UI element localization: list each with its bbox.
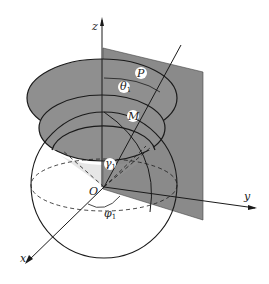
phi-sub: 1 xyxy=(112,213,116,221)
gamma-sub: 1 xyxy=(112,163,116,171)
y-axis-label: y xyxy=(243,190,251,203)
spherical-coordinate-diagram: z y x O P M θ1 γ1 φ1 xyxy=(0,0,269,284)
svg-text:φ1: φ1 xyxy=(104,207,116,221)
z-axis-label: z xyxy=(91,20,98,33)
x-axis xyxy=(27,187,104,262)
y-arrow-icon xyxy=(248,205,257,210)
theta-sub: 1 xyxy=(127,86,131,94)
origin-label: O xyxy=(89,185,98,198)
point-p-label: P xyxy=(136,67,145,80)
point-m-label: M xyxy=(127,110,140,123)
z-arrow-icon xyxy=(100,17,104,26)
x-axis-label: x xyxy=(20,252,27,265)
